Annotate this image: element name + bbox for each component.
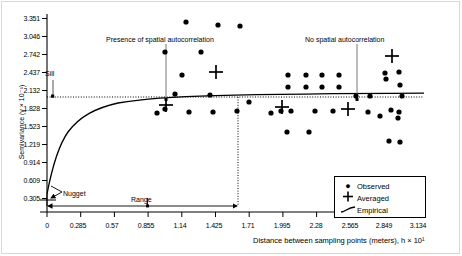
legend-label-observed: Observed xyxy=(357,182,390,191)
y-axis-ticks xyxy=(42,19,47,199)
averaged-points xyxy=(159,49,399,116)
nugget-leader xyxy=(51,186,62,198)
legend-item-empirical: Empirical xyxy=(339,204,421,216)
chart-legend: ● Observed Averaged Empirical xyxy=(334,176,426,218)
observed-points xyxy=(154,19,404,144)
legend-label-empirical: Empirical xyxy=(357,206,388,215)
plus-marker xyxy=(159,98,173,112)
plus-marker xyxy=(341,102,355,116)
no-autocorrelation-annotation-leader xyxy=(356,44,359,101)
sill-leader xyxy=(51,80,54,98)
legend-label-averaged: Averaged xyxy=(357,194,389,203)
range-extent-arrow xyxy=(48,198,237,207)
x-axis-title: Distance between sampling points (meters… xyxy=(253,236,453,245)
plus-marker xyxy=(385,49,399,63)
curve-line-icon xyxy=(339,204,357,217)
plus-marker xyxy=(275,100,289,114)
plot-area: Semivariance (γ × 10⁻¹) 3.351 3.046 2.74… xyxy=(0,0,462,256)
x-axis-title-text: Distance between sampling points (meters… xyxy=(253,236,425,245)
plus-marker xyxy=(209,65,223,79)
nugget-extent-marker xyxy=(40,194,56,206)
legend-item-averaged: Averaged xyxy=(339,192,421,204)
semivariogram-figure: Semivariance (γ × 10⁻¹) 3.351 3.046 2.74… xyxy=(0,0,462,256)
